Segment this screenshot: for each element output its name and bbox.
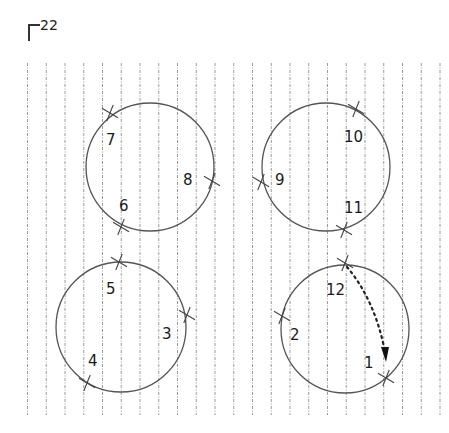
point-label-6: 6 xyxy=(119,197,129,215)
point-label-10: 10 xyxy=(344,128,363,146)
point-label-12: 12 xyxy=(326,281,345,299)
point-label-11: 11 xyxy=(344,199,363,217)
point-label-8: 8 xyxy=(183,171,193,189)
cross-mark-8 xyxy=(209,173,215,189)
point-label-7: 7 xyxy=(106,131,116,149)
figure-label: 22 xyxy=(29,17,58,41)
point-label-4: 4 xyxy=(88,352,98,370)
point-label-5: 5 xyxy=(106,280,116,298)
point-label-1: 1 xyxy=(364,354,374,372)
dotted-arrow-path xyxy=(347,267,385,352)
point-label-9: 9 xyxy=(275,171,285,189)
figure-number: 22 xyxy=(40,17,58,33)
circle-top-right xyxy=(262,103,390,231)
dotted-arrow xyxy=(347,267,389,362)
corner-bracket-icon xyxy=(29,25,40,41)
circle-points-diagram: 123456789101112 22 xyxy=(0,0,449,433)
point-label-3: 3 xyxy=(162,325,172,343)
point-label-2: 2 xyxy=(290,326,300,344)
arrow-head-icon xyxy=(381,347,389,362)
cross-mark-7 xyxy=(107,105,113,121)
point-labels: 123456789101112 xyxy=(88,128,374,372)
circle-top-left xyxy=(86,103,214,231)
